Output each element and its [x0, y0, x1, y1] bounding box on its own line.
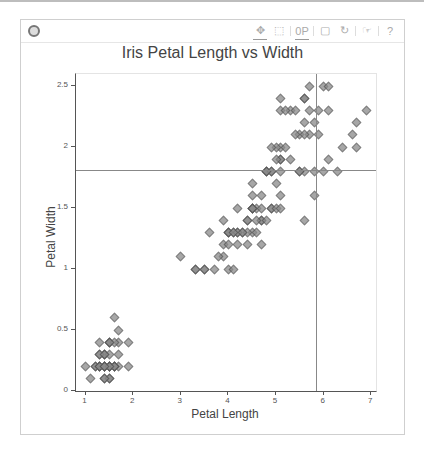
data-point: [319, 167, 329, 177]
x-tick-mark: [370, 391, 371, 395]
save-tool-icon[interactable]: ▢: [317, 23, 333, 38]
y-tick-mark: [71, 329, 75, 330]
y-tick-mark: [71, 146, 75, 147]
data-point: [338, 142, 348, 152]
data-point: [333, 167, 343, 177]
data-point: [81, 362, 91, 372]
hover-tool-icon[interactable]: ☞: [359, 23, 375, 38]
x-tick-mark: [85, 391, 86, 395]
data-point: [276, 191, 286, 201]
x-axis-label: Petal Length: [75, 407, 375, 421]
data-point: [285, 154, 295, 164]
chart-title: Iris Petal Length vs Width: [21, 44, 404, 62]
window-top-border: [0, 0, 424, 2]
x-tick-label: 2: [125, 396, 139, 405]
data-point: [362, 106, 372, 116]
data-point: [114, 325, 124, 335]
x-tick-label: 6: [316, 396, 330, 405]
data-point: [190, 264, 200, 274]
data-point: [123, 337, 133, 347]
data-point: [176, 252, 186, 262]
data-point: [352, 118, 362, 128]
data-point: [242, 240, 252, 250]
data-point: [233, 240, 243, 250]
data-point: [247, 179, 257, 189]
y-axis-label: Petal Width: [44, 177, 58, 297]
y-tick-label: 1: [46, 263, 68, 272]
toolbar-separator: [355, 26, 356, 36]
x-tick-mark: [323, 391, 324, 395]
crosshair-vertical: [316, 74, 317, 391]
y-tick-label: 1.5: [46, 202, 68, 211]
y-tick-mark: [71, 85, 75, 86]
toolbar-separator: [313, 26, 314, 36]
x-tick-label: 4: [220, 396, 234, 405]
data-point: [276, 93, 286, 103]
data-point: [300, 118, 310, 128]
data-point: [271, 179, 281, 189]
x-tick-mark: [227, 391, 228, 395]
x-tick-label: 5: [268, 396, 282, 405]
data-point: [114, 349, 124, 359]
data-point: [309, 191, 319, 201]
y-tick-label: 2: [46, 141, 68, 150]
toolbar-separator: [378, 26, 379, 36]
y-tick-label: 2.5: [46, 80, 68, 89]
data-point: [109, 313, 119, 323]
data-point: [247, 191, 257, 201]
data-point: [323, 154, 333, 164]
data-point: [233, 203, 243, 213]
x-tick-label: 1: [78, 396, 92, 405]
help-tool-icon[interactable]: ?: [382, 23, 398, 38]
data-point: [309, 167, 319, 177]
x-tick-mark: [180, 391, 181, 395]
data-point: [200, 264, 210, 274]
data-point: [209, 264, 219, 274]
y-tick-label: 0: [46, 385, 68, 394]
data-point: [219, 215, 229, 225]
toolbar-separator: [290, 26, 291, 36]
pan-tool-icon[interactable]: ✥: [252, 23, 268, 38]
wheel-zoom-tool-icon[interactable]: 0P: [294, 23, 310, 38]
x-tick-label: 7: [363, 396, 377, 405]
y-tick-mark: [71, 268, 75, 269]
plot-area[interactable]: [75, 73, 377, 392]
tool-group: ✥⬚0P▢↻☞?: [252, 23, 398, 38]
data-point: [123, 362, 133, 372]
plot-frame: ✥⬚0P▢↻☞? Iris Petal Length vs Width Peta…: [20, 19, 405, 435]
x-tick-mark: [275, 391, 276, 395]
data-point: [204, 228, 214, 238]
data-point: [257, 240, 267, 250]
data-point: [347, 130, 357, 140]
data-point: [85, 374, 95, 384]
box-zoom-tool-icon[interactable]: ⬚: [271, 23, 287, 38]
data-point: [304, 81, 314, 91]
y-tick-mark: [71, 390, 75, 391]
x-tick-label: 3: [173, 396, 187, 405]
data-point: [352, 142, 362, 152]
x-tick-mark: [132, 391, 133, 395]
data-point: [300, 215, 310, 225]
data-point: [276, 167, 286, 177]
y-tick-mark: [71, 207, 75, 208]
bokeh-logo-icon[interactable]: [28, 25, 40, 37]
reset-tool-icon[interactable]: ↻: [336, 23, 352, 38]
crosshair-horizontal: [76, 170, 376, 171]
data-point: [95, 337, 105, 347]
data-point: [257, 191, 267, 201]
y-tick-label: 0.5: [46, 324, 68, 333]
data-point: [309, 118, 319, 128]
data-point: [300, 93, 310, 103]
toolbar: ✥⬚0P▢↻☞?: [21, 20, 404, 43]
data-point: [323, 106, 333, 116]
